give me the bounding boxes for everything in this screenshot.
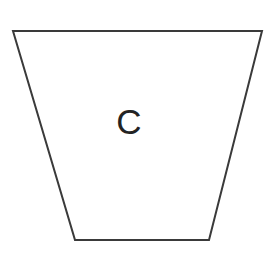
figure-canvas: C: [0, 0, 273, 263]
shape-diagram: C: [0, 0, 273, 263]
shape-label-c: C: [116, 102, 141, 141]
